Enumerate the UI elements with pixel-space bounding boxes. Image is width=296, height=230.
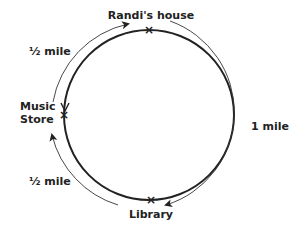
label-music-store-line2: Store	[20, 113, 54, 126]
marker-library: ×	[146, 193, 156, 207]
label-distance-house-to-library: 1 mile	[251, 120, 289, 133]
label-distance-store-to-library: ½ mile	[29, 175, 71, 188]
arc-house-to-library	[166, 21, 234, 205]
route-circle	[64, 30, 234, 200]
diagram-canvas: × × × Randi's house Music Store Library …	[0, 0, 296, 230]
marker-randis-house: ×	[144, 23, 154, 37]
label-music-store-line1: Music	[20, 100, 56, 113]
label-randis-house: Randi's house	[108, 9, 194, 22]
marker-music-store: ×	[59, 108, 69, 122]
route-diagram: × × × Randi's house Music Store Library …	[0, 0, 296, 230]
label-distance-house-to-store: ½ mile	[29, 45, 71, 58]
label-library: Library	[129, 208, 173, 221]
